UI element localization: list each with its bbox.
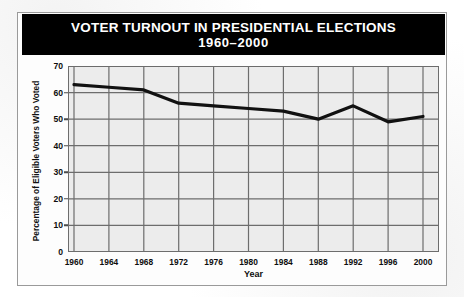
- x-tick-label: 1984: [274, 257, 293, 267]
- y-tick-label: 10: [53, 220, 63, 230]
- y-tick-mark: [64, 172, 68, 174]
- y-tick-label: 30: [53, 167, 63, 177]
- y-tick-label: 40: [53, 141, 63, 151]
- y-tick-mark: [64, 92, 68, 94]
- x-axis-label: Year: [68, 269, 439, 279]
- y-tick-label: 60: [53, 88, 63, 98]
- chart-title-bar: VOTER TURNOUT IN PRESIDENTIAL ELECTIONS …: [22, 14, 445, 55]
- x-tick-label: 1964: [100, 257, 119, 267]
- x-tick-label: 1992: [344, 257, 363, 267]
- x-tick-label: 1980: [239, 257, 258, 267]
- x-tick-label: 1972: [169, 257, 188, 267]
- y-tick-label: 50: [53, 114, 63, 124]
- y-axis-label: Percentage of Eligible Voters Who Voted: [29, 61, 43, 261]
- x-tick-label: 1968: [134, 257, 153, 267]
- y-tick-mark: [64, 225, 68, 227]
- turnout-series-line: [68, 66, 439, 252]
- chart-figure: VOTER TURNOUT IN PRESIDENTIAL ELECTIONS …: [17, 12, 447, 286]
- plot-area: 010203040506070 196019641968197219761980…: [68, 66, 439, 252]
- y-tick-mark: [64, 118, 68, 120]
- x-tick-label: 1976: [204, 257, 223, 267]
- x-tick-label: 1960: [65, 257, 84, 267]
- y-tick-mark: [64, 145, 68, 147]
- y-tick-label: 70: [53, 61, 63, 71]
- chart-title-primary: VOTER TURNOUT IN PRESIDENTIAL ELECTIONS: [71, 20, 396, 35]
- y-tick-label: 0: [58, 247, 63, 257]
- x-tick-label: 1996: [379, 257, 398, 267]
- y-tick-label: 20: [53, 194, 63, 204]
- page-background: VOTER TURNOUT IN PRESIDENTIAL ELECTIONS …: [0, 0, 464, 297]
- x-tick-label: 1988: [309, 257, 328, 267]
- x-tick-label: 2000: [414, 257, 433, 267]
- y-tick-mark: [64, 198, 68, 200]
- chart-title-subtitle: 1960–2000: [198, 35, 268, 50]
